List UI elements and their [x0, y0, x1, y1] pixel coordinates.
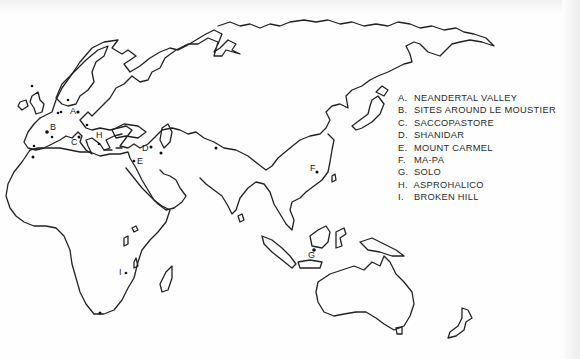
africa-coastline [6, 148, 170, 314]
legend-item-d: D. SHANIDAR [398, 129, 556, 141]
south-asia-coastline [200, 134, 334, 230]
britain-coastline [30, 92, 44, 114]
site-marker-e[interactable] [133, 160, 136, 163]
japan-coastline [352, 96, 384, 130]
sri-lanka-coastline [238, 214, 244, 222]
legend-item-a: A. NEANDERTAL VALLEY [398, 92, 556, 104]
sumatra-coastline [262, 236, 296, 268]
caspian-sea-coastline [160, 124, 172, 148]
arabia-coastline [126, 168, 186, 210]
site-marker[interactable] [160, 152, 163, 155]
new-guinea-coastline [360, 238, 404, 256]
australia-coastline [316, 256, 414, 330]
site-marker[interactable] [33, 145, 36, 148]
lake-victoria-coastline [132, 226, 138, 232]
scan-shadow-right [562, 0, 580, 359]
tasmania-coastline [396, 327, 402, 334]
legend-item-f: F. MA-PA [398, 154, 556, 166]
site-marker[interactable] [57, 112, 60, 115]
site-marker[interactable] [215, 147, 218, 150]
ireland-coastline [18, 100, 28, 110]
scandinavia-coastline [56, 46, 108, 106]
legend-item-c: C. SACCOPASTORE [398, 117, 556, 129]
site-label-b: B [50, 122, 56, 132]
site-label-a: A [70, 106, 76, 116]
site-label-d: D [142, 143, 149, 153]
borneo-coastline [310, 226, 330, 248]
new-zealand-coastline [448, 308, 472, 338]
site-label-c: C [71, 137, 78, 147]
site-marker-i[interactable] [125, 272, 128, 275]
madagascar-coastline [160, 266, 172, 292]
legend-item-e: E. MOUNT CARMEL [398, 142, 556, 154]
site-marker-h[interactable] [98, 143, 101, 146]
legend-item-i: I. BROKEN HILL [398, 191, 556, 203]
legend-item-g: G. SOLO [398, 166, 556, 178]
legend-item-h: H. ASPROHALICO [398, 179, 556, 191]
site-label-e: E [137, 156, 143, 166]
site-label-f: F [310, 163, 316, 173]
taiwan-coastline [332, 174, 336, 182]
map-figure: A B C H D E F G I A. NEANDERTAL VALLEY B… [0, 0, 580, 359]
site-label-h: H [96, 130, 103, 140]
site-marker-f[interactable] [316, 171, 319, 174]
site-marker-a[interactable] [76, 110, 79, 113]
java-coastline [298, 260, 322, 268]
site-marker[interactable] [32, 156, 35, 159]
site-marker[interactable] [31, 85, 34, 88]
hokkaido-coastline [376, 86, 388, 96]
site-marker-b[interactable] [45, 130, 49, 134]
lake-malawi-coastline [134, 258, 138, 268]
site-legend: A. NEANDERTAL VALLEY B. SITES AROUND LE … [398, 92, 556, 204]
site-marker[interactable] [99, 312, 102, 315]
site-label-i: I [119, 267, 122, 277]
lake-tanganyika-coastline [124, 236, 128, 246]
site-marker[interactable] [60, 111, 63, 114]
site-marker-c[interactable] [78, 136, 81, 139]
site-marker-d[interactable] [150, 146, 153, 149]
sulawesi-coastline [336, 228, 346, 248]
site-marker[interactable] [86, 124, 89, 127]
site-label-g: G [308, 250, 315, 260]
black-sea-coastline [112, 124, 146, 138]
site-marker[interactable] [51, 136, 54, 139]
site-marker[interactable] [67, 99, 70, 102]
legend-item-b: B. SITES AROUND LE MOUSTIER [398, 104, 556, 116]
